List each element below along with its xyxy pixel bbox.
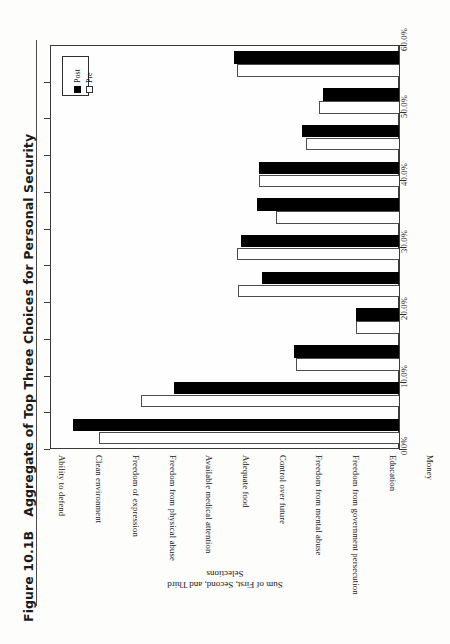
bar-group [51, 46, 400, 83]
figure-page: Figure 10.1B Aggregate of Top Three Choi… [0, 0, 450, 644]
bar-group [51, 156, 400, 193]
figure-caption: Figure 10.1B Aggregate of Top Three Choi… [15, 2, 41, 622]
value-tick-label: 30.0% [399, 207, 409, 253]
legend-swatch-post-icon [74, 86, 81, 93]
bar-pre [356, 321, 400, 334]
category-tick [44, 192, 50, 193]
value-tick-label: 10.0% [399, 342, 409, 388]
bar-post [241, 235, 400, 248]
legend-label-pre: Pre [85, 72, 94, 83]
bar-group [51, 340, 400, 377]
category-tick [44, 449, 50, 450]
category-tick [44, 229, 50, 230]
value-tick-label: 60.0% [399, 5, 409, 51]
bar-post [294, 345, 400, 358]
bar-post [302, 125, 400, 138]
legend-item-pre: Pre [83, 53, 95, 93]
bar-pre [259, 175, 400, 188]
category-label: Clean environment [94, 455, 104, 523]
category-label: Control over future [278, 455, 288, 524]
bar-pre [319, 101, 400, 114]
category-label: Available medical attention [204, 455, 214, 553]
category-label: Freedom from physical abuse [168, 455, 178, 561]
bar-pre [141, 395, 400, 408]
bar-group [51, 193, 400, 230]
category-label: Freedom of expression [131, 455, 141, 537]
bar-pre [99, 432, 400, 445]
figure-title: Aggregate of Top Three Choices for Perso… [21, 134, 36, 517]
bar-pre [276, 211, 400, 224]
caption-divider [36, 40, 37, 606]
category-tick [44, 412, 50, 413]
legend-item-post: Post [71, 53, 83, 93]
category-tick [44, 118, 50, 119]
bar-pre [306, 138, 400, 151]
bar-group [51, 413, 400, 450]
bar-pre [237, 64, 400, 77]
category-label: Education [388, 455, 398, 491]
figure-number: Figure 10.1B [21, 531, 36, 622]
bar-post [234, 51, 400, 64]
legend-label-post: Post [73, 69, 82, 83]
category-label: Freedom from government persecution [351, 455, 361, 595]
bar-pre [237, 248, 400, 261]
plot-area [50, 45, 399, 449]
value-tick-label: 40.0% [399, 140, 409, 186]
category-label: Money [425, 455, 435, 480]
bar-post [257, 198, 400, 211]
bar-group [51, 377, 400, 414]
bar-post [73, 419, 400, 432]
legend: Post Pre [62, 56, 89, 96]
category-tick [44, 265, 50, 266]
category-tick [44, 302, 50, 303]
category-tick [44, 155, 50, 156]
bar-post [323, 88, 400, 101]
value-tick-label: 0.0% [399, 409, 409, 455]
bar-post [174, 382, 400, 395]
bar-post [262, 272, 400, 285]
bar-pre [238, 285, 400, 298]
category-tick [44, 82, 50, 83]
bar-post [356, 308, 400, 321]
bar-group [51, 230, 400, 267]
bar-group [51, 266, 400, 303]
bar-group [51, 303, 400, 340]
value-tick-label: 50.0% [399, 72, 409, 118]
category-tick [44, 339, 50, 340]
bar-group [51, 83, 400, 120]
category-tick [44, 376, 50, 377]
bar-post [259, 162, 400, 175]
bar-pre [296, 358, 400, 371]
bar-group [51, 119, 400, 156]
legend-swatch-pre-icon [86, 86, 93, 93]
category-label: Ability to defend [57, 455, 67, 516]
category-label: Freedom from mental abuse [314, 455, 324, 555]
category-label: Adequate food [241, 455, 251, 508]
axis-title: Sum of First, Second, and Third Selectio… [155, 568, 295, 590]
value-tick-label: 20.0% [399, 274, 409, 320]
